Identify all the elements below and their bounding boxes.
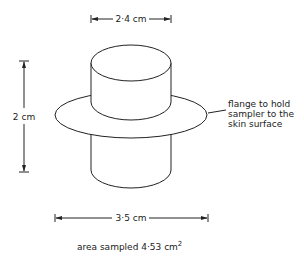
area-caption: area sampled 4·53 cm2 xyxy=(77,240,182,252)
flange-annotation: flange to hold sampler to the skin surfa… xyxy=(208,99,294,129)
flange-diameter-dimension: 3·5 cm xyxy=(55,213,208,223)
area-caption-superscript: 2 xyxy=(178,240,182,248)
annotation-line-3: skin surface xyxy=(228,119,283,129)
annotation-line-2: sampler to the xyxy=(228,109,294,119)
top-diameter-label: 2·4 cm xyxy=(116,14,147,24)
annotation-line-1: flange to hold xyxy=(228,99,290,109)
height-dimension: 2 cm xyxy=(13,61,35,172)
top-diameter-dimension: 2·4 cm xyxy=(91,14,171,24)
area-caption-text: area sampled 4·53 cm xyxy=(77,242,178,252)
upper-cylinder xyxy=(91,45,171,120)
lower-cylinder xyxy=(91,130,171,188)
height-label: 2 cm xyxy=(13,112,35,122)
flange-diameter-label: 3·5 cm xyxy=(116,213,147,223)
sampler-diagram: 2·4 cm 2 cm flange to hold sampler to th… xyxy=(0,0,304,260)
